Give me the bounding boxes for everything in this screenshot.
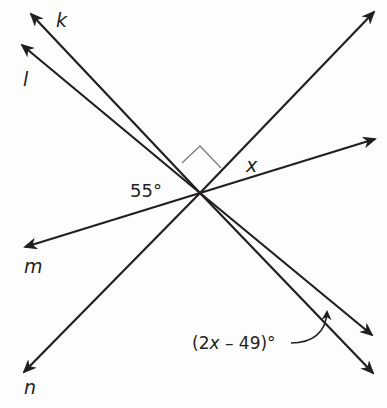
expr-prefix: (2 [192, 333, 209, 353]
line-l [22, 45, 200, 193]
label-m: m [24, 255, 43, 277]
angle-55-label: 55° [130, 180, 162, 201]
label-k: k [56, 9, 68, 31]
line-l-ray-lower [200, 193, 372, 335]
right-angle-marker [182, 146, 221, 168]
angle-expression-label: (2x – 49)° [192, 333, 276, 353]
angle-pointer-arrow [291, 312, 327, 343]
diagram-canvas: k l m n 55° x (2x – 49)° [0, 0, 387, 408]
label-l: l [23, 68, 29, 90]
expr-suffix: – 49)° [220, 333, 276, 353]
line-k [31, 14, 200, 193]
label-n: n [24, 376, 36, 398]
geometry-diagram: k l m n 55° x (2x – 49)° [0, 0, 387, 408]
angle-x-label: x [245, 154, 258, 176]
